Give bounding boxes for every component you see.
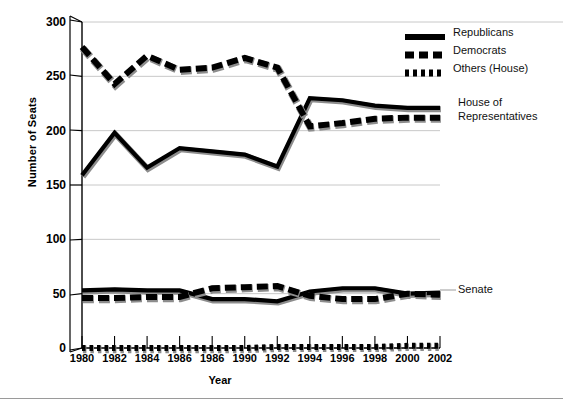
legend-label: Democrats [453,44,506,56]
legend-swatch-dotted [404,64,446,72]
legend-label: Republicans [453,26,514,38]
annotation-house-line2: Representatives [458,110,538,124]
legend-swatch-dashed [404,46,446,54]
x-tick-label: 2002 [428,352,452,364]
legend-item: Republicans [404,24,563,40]
legend-item: Others (House) [404,60,563,76]
x-tick-label: 1998 [363,352,387,364]
annotation-house-line1: House of [458,96,538,110]
annotation-house: House of Representatives [458,96,538,124]
x-tick-label: 1984 [135,352,159,364]
x-tick-label: 1992 [265,352,289,364]
legend-item: Democrats [404,42,563,58]
x-tick-label: 1986 [200,352,224,364]
annotation-senate: Senate [458,283,493,297]
y-axis-title: Number of Seats [26,62,38,222]
x-tick-label: 1980 [70,352,94,364]
legend-swatch-solid [404,28,446,36]
x-tick-label: 2000 [395,352,419,364]
x-tick-label: 1986 [167,352,191,364]
footer-divider [0,398,563,399]
x-tick-label: 1994 [298,352,322,364]
chart-legend: RepublicansDemocratsOthers (House) [404,24,563,78]
x-tick-label: 1990 [232,352,256,364]
x-axis-title: Year [0,374,440,386]
x-tick-label: 1996 [330,352,354,364]
legend-label: Others (House) [453,62,528,74]
x-tick-label: 1982 [102,352,126,364]
chart-figure: 050100150200250300 198019821984198619861… [0,0,563,408]
